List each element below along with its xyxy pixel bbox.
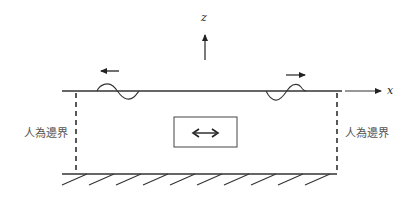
x-axis: x — [345, 84, 394, 97]
right-wave-curve — [266, 84, 306, 100]
z-axis: z — [200, 11, 207, 60]
wave-domain-diagram: z x 人為邊界 人為邊界 — [0, 0, 415, 204]
right-boundary-label: 人為邊界 — [345, 126, 389, 140]
left-boundary-label: 人為邊界 — [24, 126, 68, 140]
z-axis-label: z — [200, 11, 207, 24]
rigid-bottom — [62, 174, 337, 185]
x-axis-label: x — [387, 84, 394, 97]
left-wave — [97, 71, 139, 99]
bottom-hatching — [62, 174, 330, 185]
source-box — [174, 117, 237, 147]
right-wave — [266, 75, 306, 100]
source-rect — [174, 117, 237, 147]
